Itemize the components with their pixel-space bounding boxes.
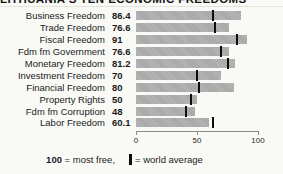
world-average-tick	[212, 117, 214, 128]
score-value: 60.1	[105, 117, 136, 128]
score-bar	[136, 47, 229, 56]
bar-track	[136, 95, 258, 104]
legend-scale-value: 100	[46, 154, 62, 165]
x-axis-tick	[258, 131, 259, 135]
world-average-tick	[236, 34, 238, 45]
bar-row: Property Rights50	[0, 93, 283, 105]
bar-row: Monetary Freedom81.2	[0, 58, 283, 70]
score-bar	[136, 95, 197, 104]
bar-track	[136, 35, 258, 44]
score-value: 50	[105, 94, 136, 105]
category-label: Monetary Freedom	[0, 58, 105, 69]
bar-track	[136, 107, 258, 116]
world-average-tick	[227, 58, 229, 69]
bar-row: Fdm fm Corruption48	[0, 105, 283, 117]
world-average-marker-icon	[129, 154, 132, 165]
score-value: 80	[105, 82, 136, 93]
bar-row: Business Freedom86.4	[0, 10, 283, 22]
category-label: Business Freedom	[0, 10, 105, 21]
chart-title: LITHUANIA'S TEN ECONOMIC FREEDOMS	[0, 0, 283, 5]
score-bar	[136, 59, 235, 68]
score-bar	[136, 11, 241, 20]
bar-track	[136, 47, 258, 56]
category-label: Fiscal Freedom	[0, 34, 105, 45]
score-value: 48	[105, 106, 136, 117]
bar-rows: Business Freedom86.4Trade Freedom76.6Fis…	[0, 10, 283, 129]
category-label: Labor Freedom	[0, 117, 105, 128]
score-value: 76.6	[105, 46, 136, 57]
category-label: Fdm fm Government	[0, 46, 105, 57]
bar-row: Financial Freedom80	[0, 81, 283, 93]
legend-scale-text: = most free,	[62, 154, 115, 165]
x-axis-tick-label: 50	[193, 136, 202, 145]
bar-row: Fiscal Freedom91	[0, 34, 283, 46]
category-label: Fdm fm Corruption	[0, 106, 105, 117]
x-axis: 050100	[136, 131, 258, 147]
bar-track	[136, 118, 258, 127]
bar-track	[136, 23, 258, 32]
bar-track	[136, 83, 258, 92]
bar-track	[136, 59, 258, 68]
category-label: Property Rights	[0, 94, 105, 105]
x-axis-tick	[136, 131, 137, 135]
world-average-tick	[220, 46, 222, 57]
score-bar	[136, 35, 247, 44]
bar-row: Fdm fm Government76.6	[0, 46, 283, 58]
bar-track	[136, 71, 258, 80]
x-axis-tick-label: 100	[251, 136, 264, 145]
score-value: 70	[105, 70, 136, 81]
world-average-tick	[196, 70, 198, 81]
x-axis-tick-label: 0	[134, 136, 138, 145]
legend-marker-text: = world average	[135, 154, 203, 165]
score-value: 91	[105, 34, 136, 45]
score-bar	[136, 71, 221, 80]
world-average-tick	[185, 106, 187, 117]
score-bar	[136, 83, 234, 92]
bar-track	[136, 11, 258, 20]
world-average-tick	[198, 82, 200, 93]
score-value: 81.2	[105, 58, 136, 69]
x-axis-tick	[197, 131, 198, 135]
bar-row: Investment Freedom70	[0, 69, 283, 81]
economic-freedoms-chart-panel: LITHUANIA'S TEN ECONOMIC FREEDOMS Busine…	[0, 0, 283, 174]
category-label: Trade Freedom	[0, 22, 105, 33]
category-label: Investment Freedom	[0, 70, 105, 81]
world-average-tick	[190, 94, 192, 105]
world-average-tick	[214, 22, 216, 33]
chart-legend: 100 = most free, = world average	[0, 154, 283, 165]
world-average-tick	[212, 10, 214, 21]
score-bar	[136, 118, 209, 127]
chart-title-clipped-strip: LITHUANIA'S TEN ECONOMIC FREEDOMS	[0, 0, 283, 7]
category-label: Financial Freedom	[0, 82, 105, 93]
score-value: 86.4	[105, 10, 136, 21]
score-value: 76.6	[105, 22, 136, 33]
bar-row: Labor Freedom60.1	[0, 117, 283, 129]
bar-row: Trade Freedom76.6	[0, 22, 283, 34]
